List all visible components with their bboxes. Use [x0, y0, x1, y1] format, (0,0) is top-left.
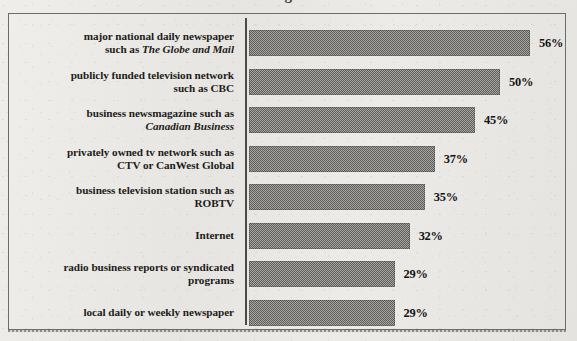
category-label-text: programs	[188, 274, 234, 286]
bar-track: 32%	[240, 221, 565, 251]
title-fragment-glyph: g	[285, 0, 293, 2]
bar-chart-plot: major national daily newspapersuch as Th…	[9, 14, 565, 329]
bar-track: 45%	[240, 105, 565, 135]
bar	[249, 146, 435, 172]
bar	[249, 30, 530, 56]
bar-row: business newsmagazine such asCanadian Bu…	[9, 105, 565, 135]
category-label-line1: local daily or weekly newspaper	[9, 306, 234, 319]
category-label-line1: business newsmagazine such as	[9, 107, 234, 120]
bar	[249, 184, 425, 210]
category-label: business newsmagazine such asCanadian Bu…	[9, 107, 240, 132]
category-label-text: such as CBC	[174, 82, 234, 94]
category-label-text: ROBTV	[194, 197, 234, 209]
bar-row: local daily or weekly newspaper29%	[9, 298, 565, 328]
category-label-line2: such as The Globe and Mail	[9, 43, 234, 56]
category-label-text: such as	[105, 43, 142, 55]
bar-track: 56%	[240, 28, 565, 58]
category-label-line1: radio business reports or syndicated	[9, 261, 234, 274]
bar-track: 29%	[240, 259, 565, 289]
category-label-text: Internet	[195, 229, 234, 241]
bar	[249, 223, 410, 249]
category-label-line1: Internet	[9, 229, 234, 242]
bar-row: privately owned tv network such asCTV or…	[9, 144, 565, 174]
bar-track: 29%	[240, 298, 565, 328]
category-label: major national daily newspapersuch as Th…	[9, 30, 240, 55]
category-label: privately owned tv network such asCTV or…	[9, 146, 240, 171]
bar	[249, 261, 395, 287]
category-label-line2: Canadian Business	[9, 120, 234, 133]
chart-page: g major national daily newspapersuch as …	[0, 0, 577, 341]
category-label-text: business television station such as	[76, 184, 234, 196]
category-label-italic: The Globe and Mail	[142, 43, 234, 55]
bar-row: major national daily newspapersuch as Th…	[9, 28, 565, 58]
bar-track: 37%	[240, 144, 565, 174]
bar-track: 50%	[240, 67, 565, 97]
bar-row: publicly funded television networksuch a…	[9, 67, 565, 97]
category-label-text: radio business reports or syndicated	[63, 261, 234, 273]
category-label-line1: privately owned tv network such as	[9, 146, 234, 159]
category-label-line2: such as CBC	[9, 82, 234, 95]
bar-row: radio business reports or syndicatedprog…	[9, 259, 565, 289]
category-label-line1: major national daily newspaper	[9, 30, 234, 43]
category-label-line2: CTV or CanWest Global	[9, 159, 234, 172]
category-label-text: major national daily newspaper	[84, 30, 234, 42]
category-label-text: local daily or weekly newspaper	[83, 306, 234, 318]
bar	[249, 300, 395, 326]
category-label: business television station such asROBTV	[9, 184, 240, 209]
bar-row: Internet32%	[9, 221, 565, 251]
bar-row: business television station such asROBTV…	[9, 182, 565, 212]
bar-value-label: 45%	[484, 113, 508, 128]
category-label-text: CTV or CanWest Global	[117, 159, 234, 171]
bar	[249, 107, 475, 133]
category-label: publicly funded television networksuch a…	[9, 69, 240, 94]
bar-value-label: 50%	[509, 74, 533, 89]
bar-value-label: 29%	[404, 267, 428, 282]
category-label: Internet	[9, 229, 240, 242]
category-label-text: publicly funded television network	[71, 69, 234, 81]
bar-value-label: 29%	[404, 305, 428, 320]
bar-value-label: 32%	[419, 228, 443, 243]
category-label-line2: ROBTV	[9, 197, 234, 210]
bar-value-label: 35%	[434, 190, 458, 205]
category-label-text: privately owned tv network such as	[67, 146, 234, 158]
category-label-line1: business television station such as	[9, 184, 234, 197]
category-label: local daily or weekly newspaper	[9, 306, 240, 319]
cut-off-title-fragment: g	[0, 0, 577, 12]
bar	[249, 69, 500, 95]
category-label-italic: Canadian Business	[146, 120, 234, 132]
category-label-line2: programs	[9, 274, 234, 287]
bar-value-label: 56%	[539, 36, 563, 51]
category-label-line1: publicly funded television network	[9, 69, 234, 82]
bar-value-label: 37%	[444, 151, 468, 166]
bar-track: 35%	[240, 182, 565, 212]
category-label-text: business newsmagazine such as	[87, 107, 234, 119]
category-label: radio business reports or syndicatedprog…	[9, 261, 240, 286]
